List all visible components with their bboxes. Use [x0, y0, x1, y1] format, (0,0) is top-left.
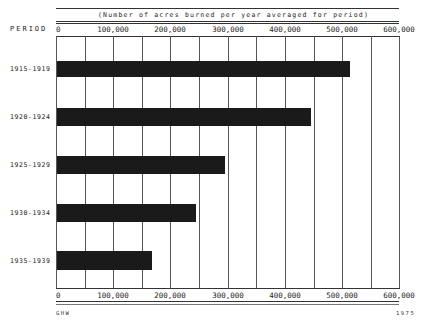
- title-rule-2: [56, 23, 399, 24]
- title-rule-1: [56, 21, 399, 22]
- bar-1930-1934: [57, 204, 196, 222]
- bar-1925-1929: [57, 156, 225, 174]
- chart-title: (Number of acres burned per year average…: [98, 11, 369, 19]
- category-label: 1915-1919: [10, 65, 51, 73]
- bar-1920-1924: [57, 108, 311, 126]
- author-initials: GHW: [56, 310, 70, 316]
- gridline: [371, 36, 372, 289]
- x-tick-label: 400,000: [269, 291, 301, 300]
- x-tick-label: 600,000: [383, 291, 415, 300]
- x-tick-label: 300,000: [212, 291, 244, 300]
- bar-1935-1939: [57, 251, 152, 270]
- category-label: 1920-1924: [10, 113, 51, 121]
- x-tick-label: 300,000: [212, 25, 244, 34]
- x-tick-label: 0: [56, 291, 61, 300]
- bottom-rule-1: [56, 301, 399, 302]
- category-label: 1935-1939: [10, 257, 51, 265]
- category-label: 1925-1929: [10, 161, 51, 169]
- x-tick-label: 200,000: [154, 291, 186, 300]
- x-tick-label: 400,000: [269, 25, 301, 34]
- x-tick-label: 200,000: [154, 25, 186, 34]
- x-tick-label: 100,000: [97, 291, 129, 300]
- bottom-rule-2: [56, 304, 399, 305]
- period-axis-label: PERIOD: [10, 25, 47, 33]
- gridline: [399, 36, 400, 289]
- x-tick-label: 500,000: [326, 25, 358, 34]
- x-tick-label: 600,000: [383, 25, 415, 34]
- x-tick-label: 0: [56, 25, 61, 34]
- x-tick-label: 100,000: [97, 25, 129, 34]
- bar-1915-1919: [57, 61, 350, 77]
- year-mark: 1975: [396, 310, 415, 316]
- x-tick-label: 500,000: [326, 291, 358, 300]
- grid-bottom-rule: [56, 288, 400, 289]
- top-rule: [56, 8, 399, 9]
- category-label: 1930-1934: [10, 209, 51, 217]
